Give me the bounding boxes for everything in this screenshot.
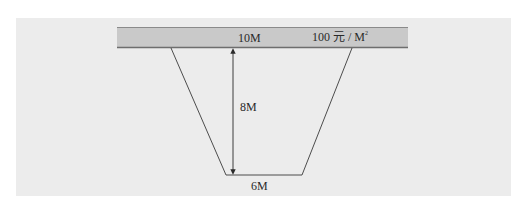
trench-diagram	[0, 0, 527, 206]
depth-label: 8M	[240, 101, 257, 113]
trench-left-slope	[171, 48, 226, 175]
unit-price-superscript: 2	[365, 30, 368, 36]
unit-price-label: 100 元 / M2	[312, 31, 368, 43]
bottom-width-label: 6M	[251, 180, 268, 192]
trench-right-slope	[302, 48, 352, 175]
unit-price-text: 100 元 / M	[312, 30, 365, 44]
top-width-label: 10M	[238, 32, 261, 44]
